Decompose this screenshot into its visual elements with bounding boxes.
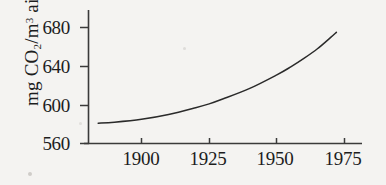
plot-area xyxy=(0,0,386,185)
scan-speck xyxy=(28,172,32,176)
data-series-line xyxy=(98,32,336,123)
scan-speck xyxy=(183,47,186,50)
axes xyxy=(84,10,362,144)
figure-container: mg CO2/m3 air 680 640 600 560 1900 1925 … xyxy=(0,0,386,185)
scan-speck xyxy=(79,122,82,125)
y-axis-ticks xyxy=(80,28,89,144)
